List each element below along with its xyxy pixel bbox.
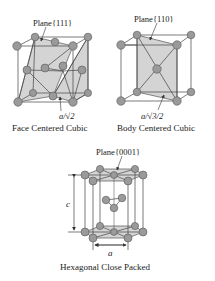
- hcp-plane-pointer: [117, 156, 122, 170]
- atom: [124, 234, 132, 242]
- atom: [111, 229, 118, 236]
- fcc-dimension-pointer: [60, 97, 61, 111]
- bcc-plane-pointer: [150, 23, 157, 40]
- atom: [69, 42, 77, 50]
- fcc-plane-label: Plane{111}: [33, 18, 72, 28]
- bcc-plane-label: Plane{110}: [134, 14, 173, 24]
- atom: [31, 33, 39, 41]
- atom: [139, 228, 147, 236]
- atom: [89, 177, 97, 185]
- atom: [110, 204, 118, 212]
- hcp-plane-label: Plane{0001}: [96, 147, 140, 157]
- atom: [49, 92, 57, 100]
- atom: [96, 165, 103, 172]
- atom: [78, 66, 86, 74]
- atom: [133, 88, 141, 96]
- atom: [124, 177, 132, 185]
- atom: [59, 62, 67, 70]
- atom: [13, 42, 21, 50]
- fcc-dimension-label: a/√2: [59, 111, 75, 121]
- atom: [117, 41, 125, 49]
- atom: [14, 98, 22, 106]
- atom: [41, 64, 49, 72]
- atom: [69, 98, 77, 106]
- bcc-caption: Body Centered Cubic: [117, 123, 195, 133]
- hcp-caption: Hexagonal Close Packed: [60, 262, 150, 272]
- atom: [139, 171, 147, 179]
- atom: [23, 66, 31, 74]
- atom: [81, 228, 89, 236]
- atom: [187, 88, 195, 96]
- fcc-caption: Face Centered Cubic: [12, 123, 87, 133]
- atom: [118, 194, 126, 202]
- hcp-width-label: a: [108, 248, 113, 258]
- atom: [111, 172, 118, 179]
- atom: [96, 222, 103, 229]
- bcc-dimension-label: a/√3/2: [141, 111, 164, 121]
- atom: [29, 89, 36, 96]
- atom: [153, 65, 161, 73]
- atom: [102, 196, 110, 204]
- atom: [173, 97, 181, 105]
- atom: [89, 234, 97, 242]
- atom: [133, 31, 141, 39]
- atom: [51, 38, 59, 46]
- crystal-structures-diagram: Plane{111} a/√2 Face Centered Cubic Plan…: [0, 0, 215, 281]
- atom: [117, 97, 125, 105]
- atom: [131, 165, 138, 172]
- atom: [84, 33, 92, 41]
- atom: [173, 41, 181, 49]
- atom: [81, 171, 89, 179]
- atom: [187, 31, 195, 39]
- atom: [84, 89, 91, 96]
- atom: [131, 222, 138, 229]
- hcp-height-label: c: [66, 199, 70, 209]
